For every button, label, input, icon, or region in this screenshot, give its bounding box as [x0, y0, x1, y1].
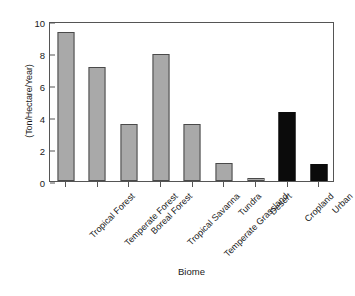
bar	[121, 124, 138, 181]
x-tick-mark	[192, 182, 193, 187]
y-tick-label: 0	[40, 178, 45, 189]
x-tick-mark	[65, 182, 66, 187]
bar-slot	[303, 23, 335, 181]
bar	[216, 163, 233, 181]
bar-slot	[50, 23, 82, 181]
x-tick-mark	[287, 182, 288, 187]
bar	[311, 164, 328, 181]
bars-layer	[50, 23, 333, 181]
bar-slot	[272, 23, 304, 181]
bar	[57, 32, 74, 181]
x-tick-mark	[160, 182, 161, 187]
bar	[152, 54, 169, 181]
x-tick-mark	[128, 182, 129, 187]
bar	[279, 112, 296, 181]
plot-area: 0246810	[49, 22, 334, 182]
x-axis-title: Biome	[49, 266, 334, 277]
y-tick-mark	[50, 183, 55, 184]
x-tick-mark	[223, 182, 224, 187]
bar-slot	[145, 23, 177, 181]
bar	[247, 178, 264, 181]
bar-slot	[240, 23, 272, 181]
bar-slot	[113, 23, 145, 181]
y-tick-label: 2	[40, 146, 45, 157]
bar-slot	[82, 23, 114, 181]
x-tick-label: Urban	[330, 191, 354, 215]
bar-slot	[208, 23, 240, 181]
x-tick-mark	[97, 182, 98, 187]
bar	[184, 124, 201, 181]
bar-slot	[177, 23, 209, 181]
y-tick-label: 8	[40, 50, 45, 61]
y-tick-label: 6	[40, 82, 45, 93]
y-tick-label: 10	[34, 18, 45, 29]
y-tick-label: 4	[40, 114, 45, 125]
bar	[89, 67, 106, 181]
y-axis-title: (Ton/Hectare/Year)	[24, 31, 34, 171]
x-tick-mark	[318, 182, 319, 187]
x-tick-mark	[255, 182, 256, 187]
